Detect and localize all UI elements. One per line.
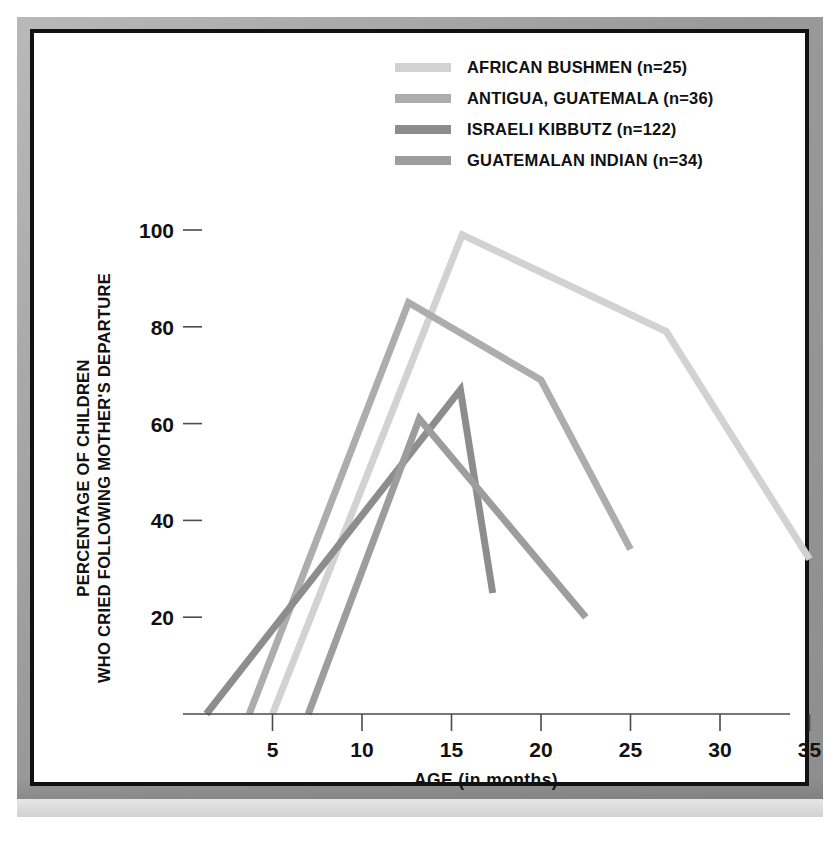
legend-item: ISRAELI KIBBUTZ (n=122) [395,114,795,145]
legend-label: ISRAELI KIBBUTZ (n=122) [467,120,677,139]
legend-swatch-israeli-kibbutz [395,125,451,134]
legend-item: GUATEMALAN INDIAN (n=34) [395,145,795,176]
legend-label: AFRICAN BUSHMEN (n=25) [467,58,687,77]
figure-page: AFRICAN BUSHMEN (n=25) ANTIGUA, GUATEMAL… [0,0,840,850]
legend-swatch-african-bushmen [395,63,451,72]
legend-label: GUATEMALAN INDIAN (n=34) [467,151,703,170]
legend-item: AFRICAN BUSHMEN (n=25) [395,52,795,83]
legend-item: ANTIGUA, GUATEMALA (n=36) [395,83,795,114]
legend-swatch-guatemalan-indian [395,156,451,165]
legend-label: ANTIGUA, GUATEMALA (n=36) [467,89,714,108]
legend-swatch-antigua-guatemala [395,94,451,103]
chart-legend: AFRICAN BUSHMEN (n=25) ANTIGUA, GUATEMAL… [395,52,795,176]
